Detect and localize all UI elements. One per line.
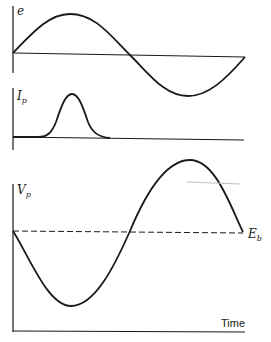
e-sine-curve: [13, 14, 245, 96]
waveform-diagram: e Ip Vp Eb Time: [0, 0, 271, 342]
faint-mark: [187, 182, 240, 184]
vp-label: Vp: [17, 183, 31, 199]
vp-curve: [13, 160, 243, 306]
eb-reference-dashed-line: [13, 231, 243, 233]
ip-label: Ip: [16, 89, 27, 105]
time-axis-label: Time: [221, 317, 245, 329]
vp-time-axis: [13, 331, 245, 332]
eb-label: Eb: [247, 227, 262, 243]
panel-plate-current: Ip: [13, 88, 244, 150]
panel-grid-voltage: e: [13, 4, 245, 96]
panel-plate-voltage: Vp Eb Time: [13, 160, 262, 332]
e-label: e: [17, 4, 24, 18]
ip-pulse-curve: [13, 94, 110, 138]
ip-baseline: [13, 137, 244, 140]
